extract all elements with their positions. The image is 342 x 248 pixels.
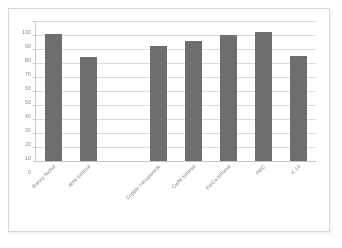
bar-series [36, 21, 316, 161]
y-tick-label-50: 50 [25, 100, 31, 105]
bar-4[interactable] [185, 41, 202, 161]
y-tick-label-0: 0 [28, 170, 31, 175]
bar-3[interactable] [150, 46, 167, 161]
x-slot-3: Copper nanoparticle [140, 162, 175, 232]
bar-slot-5 [211, 21, 246, 161]
y-tick-label-10: 10 [25, 156, 31, 161]
y-tick-label-80: 80 [25, 58, 31, 63]
x-axis-label-6: Pd/C [254, 164, 266, 176]
x-slot-0: Raney Nickel [35, 162, 70, 232]
x-slot-7: K 10 [280, 162, 315, 232]
x-slot-6: Pd/C [245, 162, 280, 232]
y-tick-label-60: 60 [25, 86, 31, 91]
plot-wrapper: 1009080706050403020100 Raney NickelAl/Ni… [9, 9, 331, 233]
x-slot-4: Cu/Ni bimetal [175, 162, 210, 232]
bar-slot-2 [106, 21, 141, 161]
y-axis-ticks: 1009080706050403020100 [13, 21, 33, 161]
x-axis-label-7: K 10 [290, 164, 302, 176]
x-axis-label-0: Raney Nickel [31, 164, 57, 190]
x-slot-1: Al/Ni bimetal [70, 162, 105, 232]
x-axis-label-4: Cu/Ni bimetal [170, 164, 196, 190]
bar-slot-6 [246, 21, 281, 161]
y-tick-label-100: 100 [22, 30, 31, 35]
bar-slot-3 [141, 21, 176, 161]
plot-area [35, 21, 316, 162]
bar-slot-0 [36, 21, 71, 161]
x-slot-2 [105, 162, 140, 232]
chart-figure: 1009080706050403020100 Raney NickelAl/Ni… [0, 0, 342, 248]
x-axis-labels: Raney NickelAl/Ni bimetalCopper nanopart… [35, 162, 315, 232]
bar-1[interactable] [80, 57, 97, 161]
y-tick-label-70: 70 [25, 72, 31, 77]
y-tick-label-90: 90 [25, 44, 31, 49]
x-slot-5: Fe/Cu bimetal [210, 162, 245, 232]
bar-7[interactable] [290, 56, 307, 161]
chart-frame: 1009080706050403020100 Raney NickelAl/Ni… [8, 8, 330, 232]
y-tick-label-20: 20 [25, 142, 31, 147]
bar-slot-7 [281, 21, 316, 161]
bar-0[interactable] [45, 34, 62, 161]
bar-6[interactable] [255, 32, 272, 161]
x-axis-label-1: Al/Ni bimetal [67, 164, 92, 189]
y-tick-label-30: 30 [25, 128, 31, 133]
bar-5[interactable] [220, 35, 237, 161]
bar-slot-4 [176, 21, 211, 161]
y-tick-label-40: 40 [25, 114, 31, 119]
bar-slot-1 [71, 21, 106, 161]
